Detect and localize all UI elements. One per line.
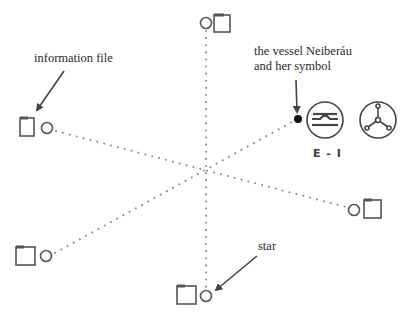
- node-bottom-left[interactable]: [16, 247, 52, 265]
- file-icon: [214, 15, 230, 32]
- vessel-symbol-icon: [307, 102, 343, 138]
- connection-left-right: [56, 131, 346, 207]
- star-icon: [41, 251, 52, 262]
- star-label: star: [258, 239, 276, 253]
- vessel-dot[interactable]: [294, 115, 302, 123]
- arrow-information-file: [37, 71, 64, 110]
- arrow-star: [216, 256, 257, 290]
- node-top[interactable]: [201, 15, 231, 32]
- star-icon: [349, 205, 360, 216]
- star-icon: [42, 123, 53, 134]
- vessel-label-line2: and her symbol: [254, 59, 331, 73]
- star-icon: [201, 18, 212, 29]
- arrow-vessel: [296, 80, 297, 112]
- node-left[interactable]: [20, 118, 53, 136]
- node-right[interactable]: [349, 200, 382, 218]
- connection-bottomleft-vessel: [55, 122, 292, 253]
- file-icon: [16, 247, 35, 265]
- star-icon: [201, 291, 212, 302]
- node-bottom[interactable]: [177, 286, 212, 304]
- file-icon: [177, 286, 196, 304]
- information-file-label: information file: [34, 51, 113, 65]
- tri-node-symbol-icon: [360, 102, 396, 138]
- file-icon: [364, 200, 381, 218]
- symbol-code-label: E - I: [313, 147, 342, 160]
- vessel-label-line1: the vessel Neiberáu: [254, 44, 352, 58]
- file-icon: [20, 118, 34, 136]
